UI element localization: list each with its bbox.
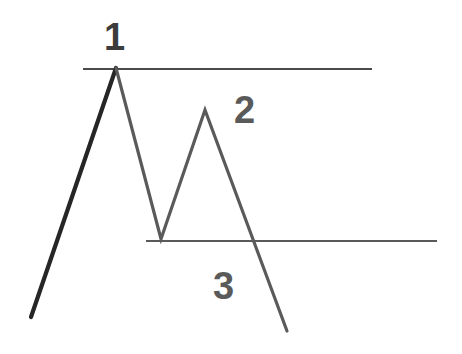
peak-2-label: 2 xyxy=(234,91,255,129)
pattern-path-line xyxy=(116,68,287,331)
diagram-canvas: 1 2 3 xyxy=(0,0,462,354)
breakdown-3-label: 3 xyxy=(213,267,234,305)
peak-1-label: 1 xyxy=(104,18,125,56)
rally-to-peak-1-line xyxy=(31,68,116,317)
